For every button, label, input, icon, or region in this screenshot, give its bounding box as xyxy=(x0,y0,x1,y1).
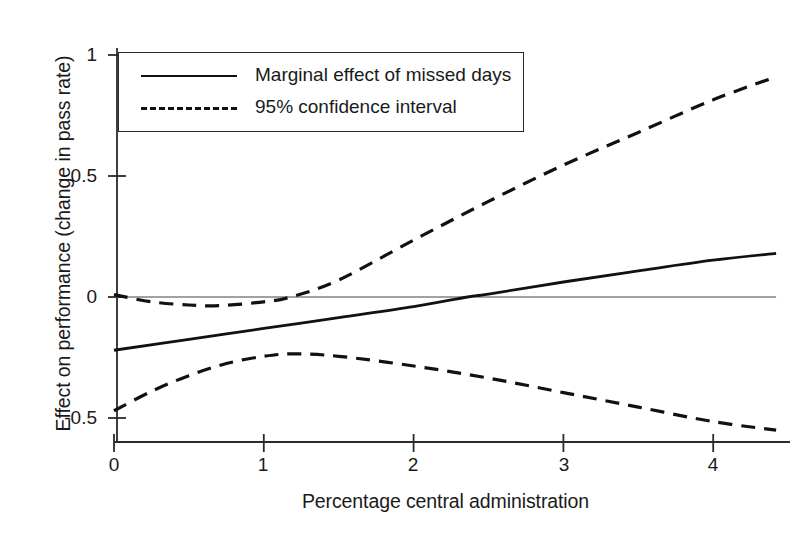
data-series-line xyxy=(114,354,776,430)
chart-legend: Marginal effect of missed days 95% confi… xyxy=(118,52,524,132)
legend-solid-line-icon xyxy=(141,75,237,77)
legend-dashed-line-icon xyxy=(141,107,237,110)
x-axis-ticks xyxy=(114,434,713,452)
chart-figure: Effect on performance (change in pass ra… xyxy=(0,0,810,541)
data-series-line xyxy=(114,253,776,350)
legend-label-marginal-effect: Marginal effect of missed days xyxy=(255,63,511,87)
legend-entry-confidence-interval: 95% confidence interval xyxy=(119,93,523,123)
legend-label-confidence-interval: 95% confidence interval xyxy=(255,95,457,119)
legend-entry-marginal-effect: Marginal effect of missed days xyxy=(119,61,523,91)
